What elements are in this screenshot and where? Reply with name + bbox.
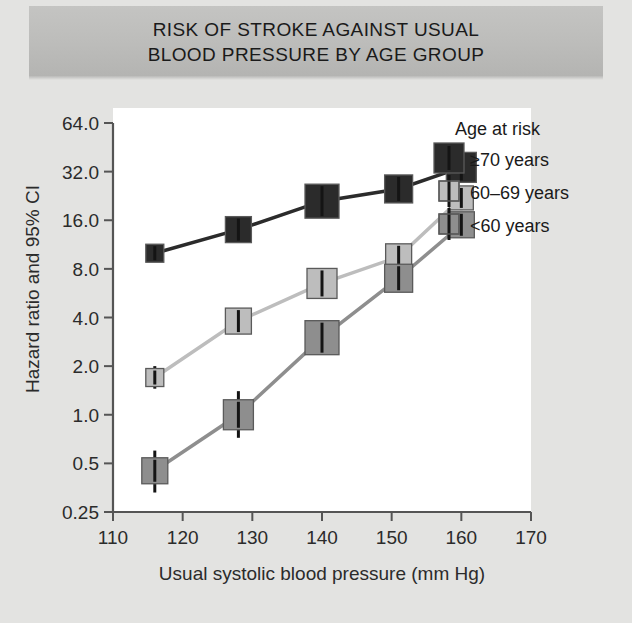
- x-tick-label: 130: [236, 527, 268, 548]
- x-tick-label: 170: [515, 527, 547, 548]
- y-tick-label: 1.0: [73, 405, 99, 426]
- x-tick-label: 160: [445, 527, 477, 548]
- y-tick-label: 32.0: [62, 162, 99, 183]
- x-tick-label: 150: [376, 527, 408, 548]
- title-banner: RISK OF STROKE AGAINST USUAL BLOOD PRESS…: [29, 6, 603, 76]
- x-tick-label: 110: [98, 527, 128, 548]
- x-tick-labels: 110120130140150160170: [98, 527, 547, 548]
- y-tick-label: 0.5: [73, 453, 99, 474]
- figure-area: Hazard ratio and 95% CI Usual systolic b…: [0, 88, 632, 623]
- page-title: RISK OF STROKE AGAINST USUAL BLOOD PRESS…: [29, 17, 603, 67]
- legend-label: ≥70 years: [470, 150, 549, 170]
- data-series-group: [142, 152, 477, 492]
- y-tick-label: 0.25: [62, 502, 99, 523]
- y-tick-label: 4.0: [73, 308, 99, 329]
- y-tick-label: 2.0: [73, 356, 99, 377]
- page-title-line1: RISK OF STROKE AGAINST USUAL: [153, 19, 480, 40]
- chart-svg: 64.032.016.08.04.02.01.00.50.25 11012013…: [0, 88, 632, 623]
- y-tick-label: 8.0: [73, 259, 99, 280]
- y-tick-label: 64.0: [62, 113, 99, 134]
- y-tick-label: 16.0: [62, 210, 99, 231]
- page-title-line2: BLOOD PRESSURE BY AGE GROUP: [29, 42, 603, 67]
- legend-label: 60–69 years: [470, 183, 569, 203]
- y-tick-labels: 64.032.016.08.04.02.01.00.50.25: [62, 113, 99, 523]
- x-tick-label: 140: [306, 527, 338, 548]
- x-tick-label: 120: [167, 527, 199, 548]
- title-banner-background: RISK OF STROKE AGAINST USUAL BLOOD PRESS…: [0, 0, 632, 88]
- banner-shadow: [29, 76, 603, 80]
- legend-title: Age at risk: [455, 119, 541, 139]
- legend-label: <60 years: [470, 216, 550, 236]
- series-70years: [146, 152, 477, 262]
